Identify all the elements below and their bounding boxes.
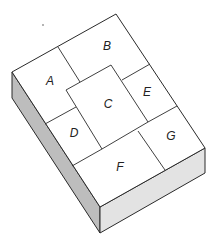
piece-label-b: B [103,39,111,53]
piece-label-c: C [104,97,113,111]
piece-label-d: D [70,126,79,140]
piece-label-e: E [143,85,152,99]
piece-label-f: F [116,160,124,174]
piece-label-a: A [45,74,54,88]
box-diagram: A B C D E F G [0,0,218,248]
piece-label-g: G [166,129,175,143]
dot-mark [42,24,44,26]
